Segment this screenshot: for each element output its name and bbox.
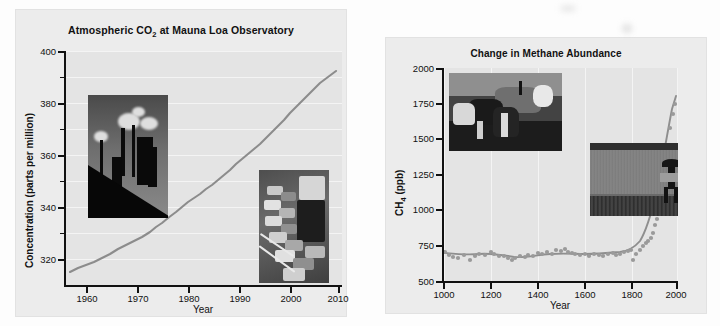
x-tick-label: 2010 xyxy=(317,293,359,304)
x-tick-label: 1980 xyxy=(168,293,210,304)
y-tick-label: 750 xyxy=(400,240,434,251)
x-tick-label: 1800 xyxy=(611,289,653,300)
x-tick-label: 1970 xyxy=(117,293,159,304)
vgridline xyxy=(585,68,586,281)
plot-area-co2 xyxy=(66,51,342,285)
y-tick xyxy=(58,259,64,261)
chart-title-co2: Atmospheric CO2 at Mauna Loa Observatory xyxy=(16,24,346,39)
gridline xyxy=(66,51,342,52)
x-axis-spine-co2 xyxy=(64,285,342,287)
y-tick xyxy=(436,103,442,105)
x-tick-label: 1600 xyxy=(564,289,606,300)
chart-panel-co2: Atmospheric CO2 at Mauna Loa Observatory xyxy=(16,10,346,316)
gridline xyxy=(66,77,342,78)
scan-artifact xyxy=(622,24,632,33)
rice-paddy-photo xyxy=(590,143,678,216)
chart-panel-ch4: Change in Methane Abundance xyxy=(386,38,706,313)
y-axis-spine-co2 xyxy=(64,51,66,287)
x-tick-label: 1960 xyxy=(66,293,108,304)
y-tick xyxy=(436,174,442,176)
y-axis-title-co2: Concentration (parts per million) xyxy=(24,113,35,268)
y-tick-minor xyxy=(60,129,64,130)
x-tick-label: 1000 xyxy=(423,289,465,300)
y-tick-label: 1750 xyxy=(400,98,434,109)
y-tick xyxy=(58,103,64,105)
y-axis-title-ch4: CH4 (ppb) xyxy=(394,170,408,216)
y-tick xyxy=(58,51,64,53)
y-tick-minor xyxy=(60,77,64,78)
y-axis-title-ch4-post: (ppb) xyxy=(394,170,405,198)
y-tick xyxy=(436,68,442,70)
chart-title-co2-pre: Atmospheric CO xyxy=(68,24,152,36)
y-axis-spine-ch4 xyxy=(442,68,444,283)
cattle-herd-photo xyxy=(449,73,562,151)
y-tick-label: 1500 xyxy=(400,133,434,144)
scan-artifact xyxy=(560,6,576,11)
x-tick-label: 2000 xyxy=(270,293,312,304)
x-tick-label: 1200 xyxy=(470,289,512,300)
y-tick xyxy=(436,209,442,211)
chart-title-ch4: Change in Methane Abundance xyxy=(386,48,706,59)
y-tick xyxy=(436,245,442,247)
y-tick xyxy=(436,138,442,140)
y-tick xyxy=(58,155,64,157)
y-tick-minor xyxy=(60,181,64,182)
y-tick-label: 2000 xyxy=(400,63,434,74)
chart-title-co2-post: at Mauna Loa Observatory xyxy=(157,24,294,36)
y-axis-title-ch4-pre: CH xyxy=(394,202,405,216)
x-tick-label: 1990 xyxy=(219,293,261,304)
factory-smokestacks-photo xyxy=(88,95,168,218)
x-tick-label: 2000 xyxy=(655,289,697,300)
figure-stage: Atmospheric CO2 at Mauna Loa Observatory xyxy=(0,0,720,326)
y-tick-minor xyxy=(60,233,64,234)
vgridline xyxy=(444,68,445,281)
y-tick xyxy=(58,207,64,209)
y-tick-label: 380 xyxy=(24,98,56,109)
plot-area-ch4 xyxy=(444,68,678,281)
x-axis-spine-ch4 xyxy=(442,281,678,283)
x-tick-label: 1400 xyxy=(517,289,559,300)
y-tick-label: 400 xyxy=(24,46,56,57)
x-axis-title-ch4: Year xyxy=(442,300,678,311)
x-axis-title-co2: Year xyxy=(64,304,342,315)
y-tick xyxy=(436,281,442,283)
y-axis-title-ch4-subscript: 4 xyxy=(399,197,408,201)
y-tick-label: 500 xyxy=(400,276,434,287)
traffic-jam-photo xyxy=(259,170,329,283)
